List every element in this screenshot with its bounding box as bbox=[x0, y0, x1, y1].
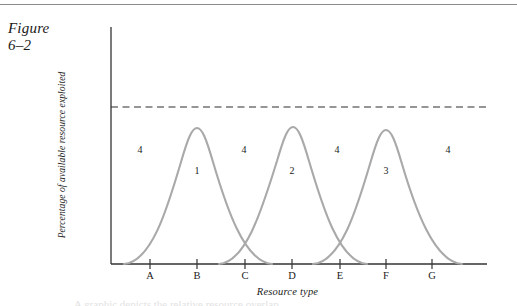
x-tick-label-g: G bbox=[422, 270, 442, 281]
x-tick-label-f: F bbox=[376, 270, 396, 281]
region-label-outer-right: 4 bbox=[440, 144, 456, 155]
x-tick-label-d: D bbox=[282, 270, 302, 281]
region-label-between-2-3: 4 bbox=[329, 144, 345, 155]
resource-curves bbox=[124, 127, 462, 264]
x-axis-title: Resource type bbox=[0, 286, 517, 297]
x-tick-label-c: C bbox=[235, 270, 255, 281]
region-label-curve-2: 2 bbox=[284, 165, 300, 176]
region-label-curve-1: 1 bbox=[189, 165, 205, 176]
region-label-curve-3: 3 bbox=[378, 165, 394, 176]
x-tick-label-a: A bbox=[140, 270, 160, 281]
figure-page: Figure 6–2 Percentage of available resou… bbox=[0, 0, 517, 306]
x-tick-label-b: B bbox=[187, 270, 207, 281]
x-tick-label-e: E bbox=[330, 270, 350, 281]
region-label-between-1-2: 4 bbox=[236, 144, 252, 155]
region-label-outer-left: 4 bbox=[132, 144, 148, 155]
cut-off-caption: A graphic depicts the relative resource … bbox=[74, 298, 464, 306]
x-axis-title-text: Resource type bbox=[257, 286, 318, 297]
